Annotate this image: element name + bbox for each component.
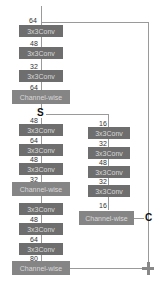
conv-block: 3x3Conv: [19, 25, 63, 37]
split-line-horizontal: [46, 114, 108, 115]
concat-line: [134, 218, 144, 219]
channelwise-block: Channel-wise: [12, 182, 70, 196]
concat-operator: C: [145, 213, 152, 223]
conv-block: 3x3Conv: [88, 127, 130, 139]
skip-line-vertical: [148, 22, 149, 262]
channel-label: 64: [29, 17, 37, 25]
channel-label: 16: [99, 202, 107, 210]
split-operator: S: [37, 108, 44, 118]
conv-block: 3x3Conv: [19, 203, 63, 215]
conv-block: 3x3Conv: [88, 147, 130, 159]
conv-block: 3x3Conv: [19, 70, 63, 82]
add-operator-icon: [142, 262, 154, 275]
conv-block: 3x3Conv: [19, 47, 63, 59]
skip-line-horizontal: [41, 22, 149, 23]
conv-block: 3x3Conv: [19, 223, 63, 235]
channelwise-block: Channel-wise: [12, 90, 70, 104]
conv-block: 3x3Conv: [88, 185, 130, 197]
conv-block: 3x3Conv: [19, 243, 63, 255]
conv-block: 3x3Conv: [19, 124, 63, 136]
conv-block: 3x3Conv: [19, 163, 63, 175]
channelwise-block: Channel-wise: [79, 211, 134, 225]
channelwise-block: Channel-wise: [12, 261, 70, 275]
conv-block: 3x3Conv: [19, 144, 63, 156]
add-input-line: [70, 268, 142, 269]
conv-block: 3x3Conv: [88, 166, 130, 178]
